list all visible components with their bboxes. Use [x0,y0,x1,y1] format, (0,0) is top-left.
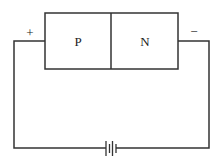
left-wire [14,41,106,148]
positive-terminal-label: + [26,25,33,40]
right-wire [116,41,209,148]
n-region-label: N [140,34,150,49]
p-region-label: P [74,34,81,49]
negative-terminal-label: − [190,24,197,39]
battery-icon [106,141,116,156]
pn-junction-diagram: P N + − [0,0,219,162]
